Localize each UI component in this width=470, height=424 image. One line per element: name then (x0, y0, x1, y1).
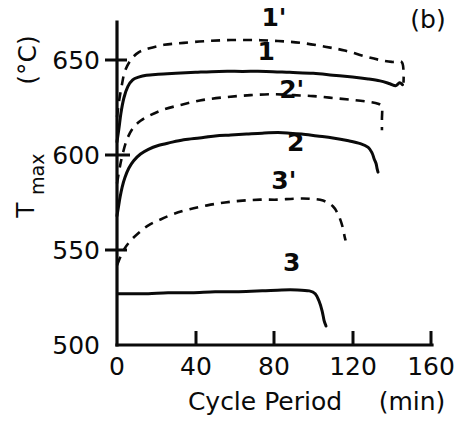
x-axis-unit-label: (min) (379, 387, 446, 416)
figure-panel-b: 650 600 550 500 0 40 80 120 160 (°C) T m… (0, 0, 470, 424)
y-axis-unit-label: (°C) (13, 35, 42, 84)
curve-labels-group: 1'12'23'3 (257, 3, 304, 277)
x-tick-label-160: 160 (407, 352, 455, 381)
x-tick-labels: 0 40 80 120 160 (109, 352, 455, 381)
y-tick-label-550: 550 (52, 236, 100, 265)
y-tick-label-500: 500 (52, 331, 100, 360)
y-tick-label-650: 650 (52, 46, 100, 75)
curve-3-prime (117, 199, 346, 266)
x-tick-label-120: 120 (329, 352, 377, 381)
y-axis-title: T (11, 202, 40, 219)
curve-label-3-prime: 3' (271, 166, 296, 195)
curve-3 (118, 290, 326, 326)
x-tick-label-40: 40 (180, 352, 212, 381)
x-axis-title: Cycle Period (188, 387, 342, 416)
y-tick-labels: 650 600 550 500 (52, 46, 100, 360)
y-tick-label-600: 600 (52, 141, 100, 170)
curve-label-1: 1 (257, 37, 274, 66)
curve-label-2-prime: 2' (279, 75, 304, 104)
curve-label-1-prime: 1' (261, 3, 286, 32)
data-curves-group (117, 40, 404, 326)
y-axis-title-subscript: max (26, 154, 48, 195)
x-tick-label-80: 80 (258, 352, 290, 381)
chart-svg: 650 600 550 500 0 40 80 120 160 (°C) T m… (0, 0, 470, 424)
curve-label-2: 2 (287, 128, 304, 157)
x-tick-label-0: 0 (109, 352, 125, 381)
curve-1 (117, 71, 403, 141)
curve-2 (117, 133, 378, 216)
curve-label-3: 3 (283, 248, 300, 277)
y-axis-title-group: T max (11, 154, 48, 219)
panel-label: (b) (410, 5, 445, 34)
